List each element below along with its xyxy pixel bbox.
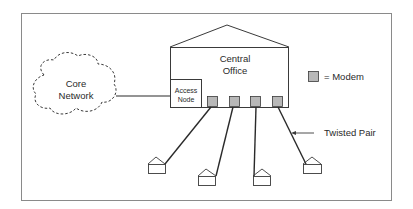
twisted-pair-label: Twisted Pair xyxy=(324,127,376,138)
twisted-pair-line xyxy=(216,107,233,176)
central-office-label-line1: Central xyxy=(220,53,251,64)
twisted-pair-annotation: Twisted Pair xyxy=(291,127,376,138)
modem-icon xyxy=(208,97,218,107)
legend-text: = Modem xyxy=(324,71,364,82)
central-office-roof xyxy=(170,25,289,47)
house-icon xyxy=(303,157,322,174)
twisted-pair-line xyxy=(165,107,211,164)
core-network-label-line2: Network xyxy=(59,90,94,101)
house-icon xyxy=(148,157,166,174)
house-icon xyxy=(253,169,271,186)
twisted-pair-line xyxy=(254,107,256,176)
modem-icon xyxy=(273,97,283,107)
twisted-pair-lines xyxy=(165,107,306,176)
central-office-label-line2: Office xyxy=(223,65,248,76)
legend: = Modem xyxy=(309,71,364,82)
central-office: Central Office Access Node xyxy=(170,25,289,108)
core-network-label-line1: Core xyxy=(66,78,87,89)
access-node-label-line1: Access xyxy=(175,87,198,94)
modem-icon xyxy=(251,97,261,107)
access-node-label-line2: Node xyxy=(178,96,195,103)
twisted-pair-line xyxy=(278,107,306,164)
modem-legend-icon xyxy=(309,72,319,82)
house-icon xyxy=(198,169,216,186)
core-network-cloud: Core Network xyxy=(33,53,116,114)
modem-icon xyxy=(230,97,240,107)
dsl-network-diagram: Core Network Central Office Access Node xyxy=(0,0,413,209)
